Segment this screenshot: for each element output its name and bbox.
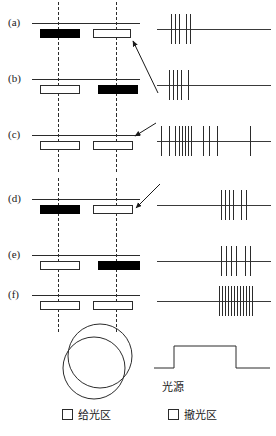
light-pulse-waveform <box>154 346 270 368</box>
light-source-trace: 光源 <box>152 338 272 400</box>
legend-item-withdraw-light: 撤光区 <box>168 406 217 422</box>
arrow-d <box>136 184 160 208</box>
neuron-response-figure: (a) (b) <box>0 0 276 436</box>
open-square-icon <box>62 409 73 420</box>
legend-item-give-light: 给光区 <box>62 406 111 422</box>
legend-label-withdraw-light: 撤光区 <box>184 406 217 422</box>
open-square-icon <box>168 409 179 420</box>
arrow-c <box>135 123 156 136</box>
receptive-field-diagram <box>50 322 150 404</box>
legend-label-give-light: 给光区 <box>78 406 111 422</box>
arrow-a-b <box>133 41 158 93</box>
legend: 给光区 撤光区 <box>0 404 276 432</box>
light-source-label: 光源 <box>162 378 184 394</box>
receptive-field-circle-inner <box>63 337 125 399</box>
